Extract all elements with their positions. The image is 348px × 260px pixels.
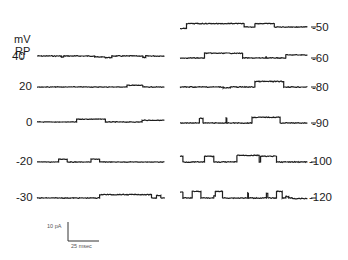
voltage-label-neg20: -20 <box>16 155 33 167</box>
unit-label-mv: mV <box>14 33 31 45</box>
trace-neg30 <box>37 194 164 198</box>
trace-neg120 <box>180 191 307 199</box>
trace-neg20 <box>37 159 164 162</box>
trace-neg80 <box>180 81 307 88</box>
traces-group <box>37 23 307 199</box>
trace-40 <box>37 56 164 58</box>
trace-20 <box>37 85 164 87</box>
scale-label-time: 25 msec <box>71 243 92 249</box>
voltage-label-20: 20 <box>19 80 32 92</box>
voltage-label-40: 40 <box>12 50 25 62</box>
trace-0 <box>37 119 164 122</box>
trace-neg90 <box>180 117 307 123</box>
trace-neg100 <box>180 155 307 162</box>
voltage-label-neg30: -30 <box>16 191 33 203</box>
voltage-label-neg120: -120 <box>309 191 332 203</box>
trace-neg50 <box>180 23 307 29</box>
scale-label-current: 10 pA <box>47 223 62 229</box>
trace-neg60 <box>180 53 307 58</box>
voltage-label-0: 0 <box>26 116 32 128</box>
scale-bar <box>68 222 99 241</box>
voltage-label-neg100: -100 <box>309 155 332 167</box>
recording-figure: mV RP + 40 20 0 -20 -30 -50 -60 -80 -90 … <box>0 0 348 260</box>
